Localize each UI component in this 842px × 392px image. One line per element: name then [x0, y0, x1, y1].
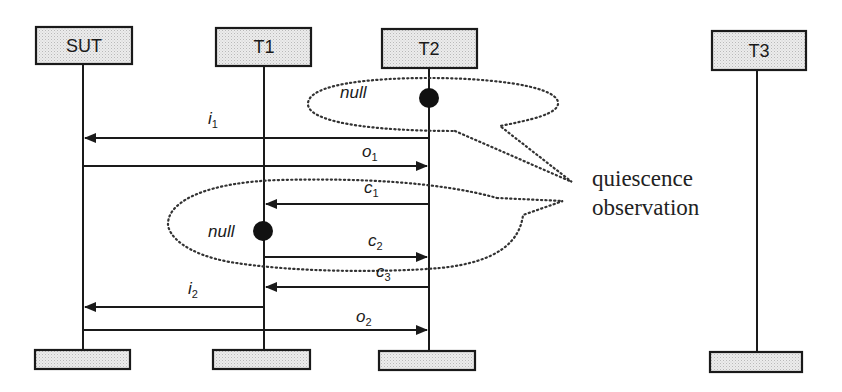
note-observation: observation [592, 195, 700, 220]
message-c3: c3 [266, 262, 429, 287]
t1-end-box [213, 350, 310, 369]
svg-text:null: null [340, 83, 368, 102]
message-i2: i2 [85, 279, 264, 307]
actor-t2: T2 [382, 29, 477, 68]
sut-end-box [35, 350, 130, 369]
message-o2: o2 [83, 307, 427, 330]
message-i1: i1 [85, 109, 429, 138]
actor-t1-label: T1 [253, 37, 274, 57]
svg-text:null: null [208, 222, 236, 241]
t3-end-box [710, 352, 802, 372]
actor-t3: T3 [712, 31, 806, 70]
sequence-diagram: SUT T1 T2 T3 i1 o1 c1 c2 c3 i2 [0, 0, 842, 392]
null-dot-icon [253, 221, 273, 241]
actor-t2-label: T2 [418, 39, 439, 59]
actor-t3-label: T3 [748, 41, 769, 61]
null-dot-icon [419, 88, 439, 108]
note-quiescence: quiescence [592, 166, 693, 191]
svg-text:i1: i1 [208, 109, 218, 130]
actor-sut-label: SUT [66, 36, 102, 56]
message-c1: c1 [266, 178, 429, 204]
actor-sut: SUT [36, 27, 132, 64]
message-o1: o1 [83, 142, 427, 166]
message-c2: c2 [264, 231, 427, 257]
svg-text:c3: c3 [376, 262, 391, 283]
svg-text:o2: o2 [356, 307, 372, 328]
null-marker-t1: null [208, 221, 273, 241]
actor-t1: T1 [216, 28, 311, 66]
null-marker-t2: null [340, 83, 439, 108]
svg-text:i2: i2 [188, 279, 198, 300]
svg-text:o1: o1 [362, 142, 378, 163]
t2-end-box [379, 351, 475, 370]
svg-text:c2: c2 [368, 231, 383, 252]
